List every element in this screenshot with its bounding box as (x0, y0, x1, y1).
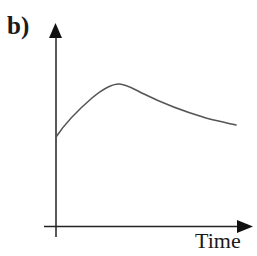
data-curve (56, 84, 236, 137)
x-axis-label: Time (195, 230, 241, 252)
y-axis-arrow-icon (49, 23, 62, 38)
line-chart (0, 0, 257, 256)
